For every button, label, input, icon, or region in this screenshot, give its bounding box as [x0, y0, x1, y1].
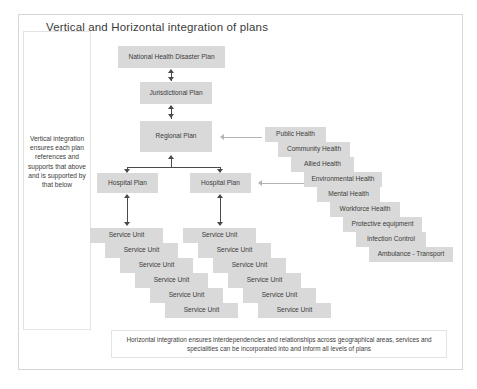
node-label: Service Unit [262, 291, 298, 300]
node-service-unit-left-2[interactable]: Service Unit [105, 243, 178, 258]
node-label: Service Unit [217, 246, 253, 255]
arrow-down-regional [168, 114, 174, 118]
node-mental-health[interactable]: Mental Health [317, 187, 380, 202]
node-workforce-health[interactable]: Workforce Health [330, 202, 400, 217]
node-label: Regional Plan [155, 132, 196, 141]
arrow-up-national [168, 69, 174, 73]
node-label: Service Unit [154, 276, 190, 285]
connector-regional-bracket [127, 167, 220, 168]
connector-hospital-service-left [127, 196, 128, 224]
node-service-unit-right-2[interactable]: Service Unit [198, 243, 271, 258]
node-infection-control[interactable]: Infection Control [356, 232, 426, 247]
node-label: Community Health [287, 145, 341, 154]
node-label: Service Unit [277, 306, 313, 315]
node-label: Protective equipment [352, 220, 414, 229]
node-label: Hospital Plan [201, 179, 240, 188]
node-community-health[interactable]: Community Health [278, 142, 350, 157]
vertical-integration-note: Vertical integration ensures each plan r… [24, 134, 90, 189]
node-hospital-plan-right[interactable]: Hospital Plan [190, 173, 251, 193]
node-environmental-health[interactable]: Environmental Health [304, 172, 382, 187]
horizontal-arrow-head-hospital [258, 180, 262, 186]
node-service-unit-left-1[interactable]: Service Unit [90, 228, 163, 243]
node-protective-equipment[interactable]: Protective equipment [343, 217, 422, 232]
node-service-unit-right-5[interactable]: Service Unit [243, 288, 316, 303]
arrow-down-jurisdictional [168, 77, 174, 81]
node-service-unit-right-4[interactable]: Service Unit [228, 273, 301, 288]
node-label: Service Unit [247, 276, 283, 285]
arrow-up-hospital-right [217, 194, 223, 198]
node-ambulance-transport[interactable]: Ambulance - Transport [369, 247, 453, 262]
horizontal-arrow-line-regional [224, 137, 262, 138]
node-service-unit-right-1[interactable]: Service Unit [183, 228, 256, 243]
node-service-unit-right-6[interactable]: Service Unit [258, 303, 331, 318]
node-label: Public Health [276, 130, 315, 139]
node-label: National Health Disaster Plan [128, 53, 214, 62]
horizontal-arrow-head-regional [220, 134, 224, 140]
node-label: Ambulance - Transport [378, 250, 445, 259]
node-label: Hospital Plan [108, 179, 147, 188]
node-jurisdictional-plan[interactable]: Jurisdictional Plan [140, 82, 212, 104]
node-service-unit-left-3[interactable]: Service Unit [120, 258, 193, 273]
node-label: Service Unit [169, 291, 205, 300]
node-national-health-disaster-plan[interactable]: National Health Disaster Plan [118, 46, 225, 68]
connector-hospital-service-right [220, 196, 221, 224]
node-service-unit-left-6[interactable]: Service Unit [165, 303, 238, 318]
node-service-unit-right-3[interactable]: Service Unit [213, 258, 286, 273]
connector-regional-stem [171, 159, 172, 167]
node-label: Service Unit [202, 231, 238, 240]
node-hospital-plan-left[interactable]: Hospital Plan [97, 173, 158, 193]
node-label: Service Unit [184, 306, 220, 315]
node-public-health[interactable]: Public Health [265, 127, 326, 142]
node-label: Jurisdictional Plan [149, 89, 202, 98]
node-label: Service Unit [124, 246, 160, 255]
node-service-unit-left-5[interactable]: Service Unit [150, 288, 223, 303]
node-label: Allied Health [304, 160, 341, 169]
node-label: Service Unit [232, 261, 268, 270]
horizontal-integration-note: Horizontal integration ensures interdepe… [111, 330, 447, 358]
slide-canvas: Vertical and Horizontal integration of p… [0, 0, 477, 389]
arrow-down-service-left [124, 222, 130, 226]
arrow-up-jurisdictional [168, 105, 174, 109]
node-label: Service Unit [109, 231, 145, 240]
arrow-up-hospital-left [124, 194, 130, 198]
horizontal-arrow-line-hospital [262, 183, 304, 184]
node-regional-plan[interactable]: Regional Plan [140, 121, 212, 152]
node-label: Environmental Health [311, 175, 374, 184]
node-label: Workforce Health [340, 205, 391, 214]
node-label: Mental Health [328, 190, 369, 199]
arrow-down-service-right [217, 222, 223, 226]
node-label: Infection Control [367, 235, 415, 244]
node-allied-health[interactable]: Allied Health [291, 157, 354, 172]
node-label: Service Unit [139, 261, 175, 270]
node-service-unit-left-4[interactable]: Service Unit [135, 273, 208, 288]
